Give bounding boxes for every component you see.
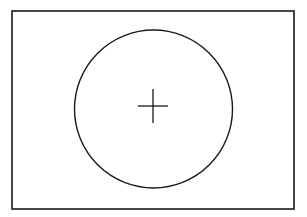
crosshair-icon bbox=[138, 89, 168, 123]
diagram-canvas bbox=[0, 0, 307, 217]
